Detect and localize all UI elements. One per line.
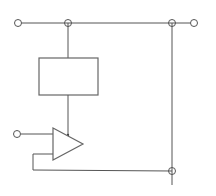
open-terminal-amp-input [14,131,21,138]
circuit-diagram [0,0,216,196]
rectangle-block [39,58,98,95]
open-terminal-top-right [191,20,198,27]
open-terminal-top-left [15,20,22,27]
